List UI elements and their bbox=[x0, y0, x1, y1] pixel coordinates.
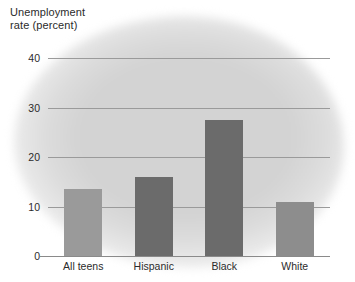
bars-group bbox=[48, 58, 330, 256]
y-tick-label-30: 30 bbox=[28, 102, 40, 114]
x-label-white: White bbox=[281, 260, 308, 272]
y-tick-label-20: 20 bbox=[28, 151, 40, 163]
x-label-all-teens: All teens bbox=[63, 260, 103, 272]
y-tick-label-40: 40 bbox=[28, 52, 40, 64]
y-tick-label-10: 10 bbox=[28, 201, 40, 213]
bar-black bbox=[205, 120, 243, 256]
x-axis-labels: All teensHispanicBlackWhite bbox=[48, 260, 330, 278]
bar-all-teens bbox=[64, 189, 102, 256]
x-label-black: Black bbox=[211, 260, 237, 272]
chart-title: Unemployment rate (percent) bbox=[10, 6, 85, 32]
bar-hispanic bbox=[135, 177, 173, 256]
x-axis-baseline bbox=[40, 256, 330, 257]
unemployment-bar-chart: Unemployment rate (percent) 010203040 Al… bbox=[0, 0, 355, 282]
plot-area: 010203040 bbox=[48, 58, 330, 256]
bar-white bbox=[276, 202, 314, 256]
x-label-hispanic: Hispanic bbox=[134, 260, 174, 272]
